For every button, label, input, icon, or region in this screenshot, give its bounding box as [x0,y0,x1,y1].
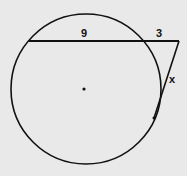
label-chord-inside: 9 [81,27,87,39]
geometry-figure: 9 3 x [0,0,187,176]
center-point [82,87,85,90]
diagram-canvas: 9 3 x [0,0,187,176]
label-tangent: x [169,73,176,85]
tangent-point [153,117,156,120]
label-external-segment: 3 [156,27,162,39]
tangent-line [154,41,179,118]
